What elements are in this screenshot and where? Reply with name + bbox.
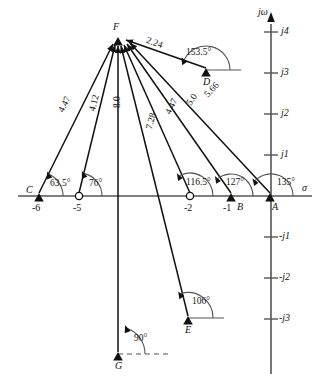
angle-label-E: 106° [192, 297, 210, 307]
tick-label-minus6: -6 [32, 203, 40, 213]
tick-label-minus1: -1 [223, 203, 231, 213]
real-axis-label: σ [302, 183, 307, 193]
angle-label-zero5: 76° [89, 179, 102, 189]
tick-label-neg-j3: -j3 [279, 313, 290, 323]
point-label-G: G [115, 361, 122, 371]
marker-group [34, 37, 275, 361]
vector-E-to-F [121, 46, 188, 316]
point-label-E: E [185, 325, 191, 335]
angle-label-A: 135° [277, 178, 295, 188]
tick-label-neg-j1: -j1 [279, 231, 290, 241]
figure-canvas: jω σ j4 j3 j2 j1 -j1 -j2 -j3 -6 -5 -2 -1… [0, 0, 323, 383]
apex-marker-F [113, 37, 123, 46]
point-label-A: A [272, 202, 278, 212]
vector-diagram-svg [0, 0, 323, 383]
point-label-B: B [237, 202, 243, 212]
zero-marker-minus2 [186, 192, 193, 199]
imag-axis-arrow [267, 12, 275, 22]
imag-axis-label: jω [258, 7, 268, 17]
point-label-F: F [113, 22, 119, 32]
tick-label-j2: j2 [281, 108, 289, 118]
angle-arc-group [50, 46, 293, 354]
tick-label-minus5: -5 [73, 203, 81, 213]
tick-label-minus2: -2 [184, 203, 192, 213]
tick-label-j1: j1 [281, 149, 289, 159]
pole-marker-C [34, 193, 44, 202]
angle-label-C: 63.5° [50, 179, 70, 189]
tick-label-neg-j2: -j2 [279, 272, 290, 282]
zero-marker-minus5 [75, 192, 82, 199]
angle-label-zero2: 116.5° [186, 178, 211, 188]
axis-group [18, 12, 312, 374]
tick-label-j4: j4 [281, 26, 289, 36]
tick-label-j3: j3 [281, 67, 289, 77]
vector-B-to-F [127, 44, 231, 193]
vector-C-to-F [39, 44, 113, 193]
angle-label-G: 90° [134, 334, 147, 344]
pole-marker-B [226, 193, 236, 202]
angle-label-B: 127° [226, 178, 244, 188]
point-label-C: C [26, 185, 33, 195]
magnitude-label-8-0: 8.0 [113, 96, 123, 108]
vector-zero5-to-F [79, 45, 115, 193]
angle-label-D: 153.5° [186, 48, 211, 58]
